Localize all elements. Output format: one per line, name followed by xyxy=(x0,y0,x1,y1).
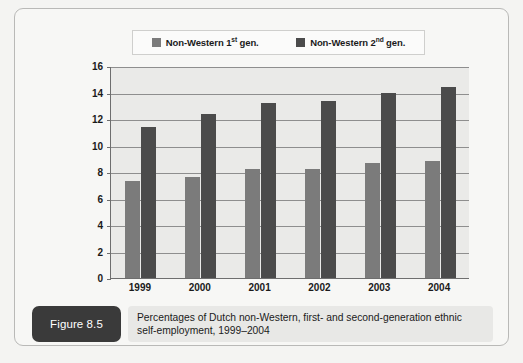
legend-label-first-gen-main: Non-Western 1 xyxy=(166,37,232,48)
bar-group-2002 xyxy=(291,67,351,278)
y-tick-label: 8 xyxy=(97,168,103,178)
bar-group-1999 xyxy=(111,67,171,278)
bar-2003-series2 xyxy=(381,93,396,279)
x-axis: 199920002001200220032004 xyxy=(110,282,469,298)
chart-legend: Non-Western 1st gen. Non-Western 2nd gen… xyxy=(132,30,425,55)
bar-group-2000 xyxy=(171,67,231,278)
chart-plot-wrapper: 0246810121416 xyxy=(77,67,469,279)
figure-number-badge: Figure 8.5 xyxy=(32,306,121,342)
x-tick-label-2001: 2001 xyxy=(248,282,270,293)
bar-1999-series1 xyxy=(125,181,140,278)
y-tick-label: 6 xyxy=(97,195,103,205)
y-tick-label: 0 xyxy=(97,274,103,284)
x-tick-label-2002: 2002 xyxy=(308,282,330,293)
bar-2002-series1 xyxy=(305,169,320,278)
bar-series-container xyxy=(111,67,469,278)
bar-2004-series1 xyxy=(425,161,440,278)
y-tick-label: 14 xyxy=(92,89,103,99)
y-tick-label: 4 xyxy=(97,221,103,231)
y-tick-label: 10 xyxy=(92,142,103,152)
y-tick-label: 2 xyxy=(97,248,103,258)
bar-2000-series2 xyxy=(201,114,216,278)
y-axis: 0246810121416 xyxy=(77,67,103,279)
y-tick-mark xyxy=(107,279,111,280)
legend-swatch-second-gen xyxy=(296,38,305,47)
x-tick-label-2004: 2004 xyxy=(428,282,450,293)
figure-caption-text: Percentages of Dutch non-Western, first-… xyxy=(137,312,483,337)
y-tick-label: 16 xyxy=(92,62,103,72)
plot-area xyxy=(110,67,469,279)
figure-number-label: Figure 8.5 xyxy=(50,318,103,330)
bar-2000-series1 xyxy=(185,177,200,278)
legend-swatch-first-gen xyxy=(152,38,161,47)
legend-label-second-gen: Non-Western 2nd gen. xyxy=(310,37,405,48)
figure-caption-row: Figure 8.5 Percentages of Dutch non-West… xyxy=(32,306,493,342)
legend-label-first-gen: Non-Western 1st gen. xyxy=(166,37,259,48)
figure-card: Non-Western 1st gen. Non-Western 2nd gen… xyxy=(14,8,509,346)
y-tick-label: 12 xyxy=(92,115,103,125)
legend-entry-second-gen: Non-Western 2nd gen. xyxy=(296,37,405,48)
bar-2001-series1 xyxy=(245,169,260,278)
bar-1999-series2 xyxy=(141,127,156,278)
legend-label-second-gen-ordinal: nd xyxy=(376,36,384,43)
bar-2001-series2 xyxy=(261,103,276,278)
legend-label-first-gen-tail: gen. xyxy=(237,37,259,48)
figure-caption-box: Percentages of Dutch non-Western, first-… xyxy=(128,306,493,342)
bar-2002-series2 xyxy=(321,101,336,278)
bar-group-2001 xyxy=(231,67,291,278)
bar-group-2004 xyxy=(410,67,470,278)
x-tick-label-2000: 2000 xyxy=(189,282,211,293)
x-tick-label-2003: 2003 xyxy=(368,282,390,293)
legend-label-second-gen-main: Non-Western 2 xyxy=(310,37,376,48)
legend-entry-first-gen: Non-Western 1st gen. xyxy=(152,37,259,48)
x-tick-label-1999: 1999 xyxy=(129,282,151,293)
legend-label-second-gen-tail: gen. xyxy=(384,37,406,48)
bar-group-2003 xyxy=(350,67,410,278)
bar-2003-series1 xyxy=(365,163,380,278)
bar-2004-series2 xyxy=(441,87,456,278)
